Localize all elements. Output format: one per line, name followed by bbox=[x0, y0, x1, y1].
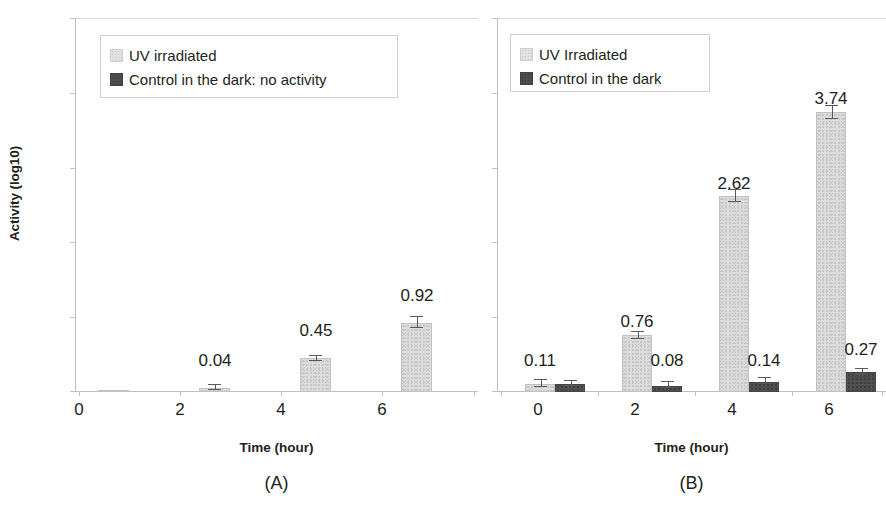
error-bar-control-2h-b bbox=[661, 381, 674, 388]
x-axis-title-b: Time (hour) bbox=[497, 440, 886, 455]
panel-b: 0.11 0.76 2.62 3.74 0.08 0.14 0.27 0 2 4… bbox=[480, 0, 886, 505]
y-axis-title-a: Activity (log10) bbox=[7, 114, 22, 274]
value-label-uv-6h-b: 3.74 bbox=[799, 90, 863, 107]
legend-label-uv-b: UV Irradiated bbox=[539, 46, 627, 63]
x-tick-4-a bbox=[281, 392, 282, 396]
x-tick-2-b bbox=[598, 392, 599, 396]
legend-swatch-dark-icon bbox=[520, 72, 533, 85]
value-label-uv-2h-a: 0.04 bbox=[183, 352, 247, 369]
y-axis-line-a bbox=[75, 18, 76, 392]
x-tick-6-b bbox=[792, 392, 793, 396]
legend-b: UV Irradiated Control in the dark bbox=[510, 34, 710, 92]
legend-label-control-b: Control in the dark bbox=[539, 70, 662, 87]
y-tick-4-b bbox=[492, 93, 497, 94]
y-tick-0-b bbox=[492, 391, 497, 392]
legend-swatch-dark-icon bbox=[110, 73, 123, 86]
value-label-control-4h-b: 0.14 bbox=[732, 352, 796, 369]
y-tick-4-a bbox=[70, 93, 75, 94]
value-label-uv-2h-b: 0.76 bbox=[605, 313, 669, 330]
legend-item-control-b: Control in the dark bbox=[520, 66, 699, 90]
bar-uv-4h-a bbox=[300, 358, 331, 392]
x-tick-end-b bbox=[882, 392, 883, 396]
y-tick-1-a bbox=[70, 317, 75, 318]
x-axis-title-a: Time (hour) bbox=[75, 440, 478, 455]
x-tick-label-4-b: 4 bbox=[712, 400, 752, 420]
legend-label-uv-a: UV irradiated bbox=[129, 47, 217, 64]
x-tick-2-a bbox=[180, 392, 181, 396]
error-bar-uv-4h-a bbox=[309, 355, 322, 361]
panel-caption-b: (B) bbox=[497, 473, 886, 494]
x-tick-label-2-b: 2 bbox=[615, 400, 655, 420]
error-bar-control-0h-b bbox=[564, 380, 577, 386]
y-tick-0-a bbox=[70, 391, 75, 392]
x-tick-end-a bbox=[474, 392, 475, 396]
panel-caption-a: (A) bbox=[75, 473, 478, 494]
x-tick-label-0-a: 0 bbox=[59, 400, 99, 420]
value-label-control-6h-b: 0.27 bbox=[829, 341, 886, 358]
bar-uv-6h-a bbox=[401, 323, 432, 392]
y-tick-1-b bbox=[492, 317, 497, 318]
error-bar-uv-2h-b bbox=[631, 331, 644, 339]
legend-item-uv-a: UV irradiated bbox=[110, 43, 387, 67]
error-bar-control-4h-b bbox=[758, 377, 771, 384]
x-tick-label-6-a: 6 bbox=[362, 400, 402, 420]
bar-control-6h-b bbox=[846, 372, 876, 392]
y-tick-5-a bbox=[70, 18, 75, 19]
x-tick-label-2-a: 2 bbox=[160, 400, 200, 420]
x-tick-4-b bbox=[695, 392, 696, 396]
value-label-uv-0h-b: 0.11 bbox=[508, 352, 572, 369]
x-tick-label-0-b: 0 bbox=[518, 400, 558, 420]
y-tick-3-a bbox=[70, 168, 75, 169]
y-tick-5-b bbox=[492, 18, 497, 19]
value-label-uv-4h-b: 2.62 bbox=[702, 175, 766, 192]
error-bar-uv-0h-b bbox=[534, 379, 547, 387]
legend-label-control-a: Control in the dark: no activity bbox=[129, 71, 327, 88]
value-label-control-2h-b: 0.08 bbox=[635, 352, 699, 369]
x-tick-0-a bbox=[79, 392, 80, 396]
y-tick-2-a bbox=[70, 242, 75, 243]
bar-uv-0h-a bbox=[98, 390, 129, 392]
y-tick-2-b bbox=[492, 242, 497, 243]
legend-swatch-light-icon bbox=[110, 49, 123, 62]
error-bar-control-6h-b bbox=[855, 368, 868, 375]
error-bar-uv-6h-a bbox=[410, 316, 423, 328]
value-label-uv-4h-a: 0.45 bbox=[284, 322, 348, 339]
error-bar-uv-2h-a bbox=[208, 384, 221, 390]
x-tick-label-4-a: 4 bbox=[261, 400, 301, 420]
figure-two-panel-bar-charts: Activity (log10) 5 4 3 2 1 0 bbox=[0, 0, 886, 505]
value-label-uv-6h-a: 0.92 bbox=[385, 287, 449, 304]
legend-a: UV irradiated Control in the dark: no ac… bbox=[100, 35, 398, 98]
x-tick-0-b bbox=[501, 392, 502, 396]
y-tick-3-b bbox=[492, 168, 497, 169]
gridline-top-b bbox=[497, 18, 886, 19]
y-axis-line-b bbox=[497, 18, 498, 392]
panel-a: Activity (log10) 5 4 3 2 1 0 bbox=[0, 0, 480, 505]
legend-swatch-light-icon bbox=[520, 48, 533, 61]
x-tick-label-6-b: 6 bbox=[809, 400, 849, 420]
gridline-top-a bbox=[75, 18, 478, 19]
legend-item-control-a: Control in the dark: no activity bbox=[110, 67, 387, 91]
x-tick-6-a bbox=[382, 392, 383, 396]
legend-item-uv-b: UV Irradiated bbox=[520, 42, 699, 66]
